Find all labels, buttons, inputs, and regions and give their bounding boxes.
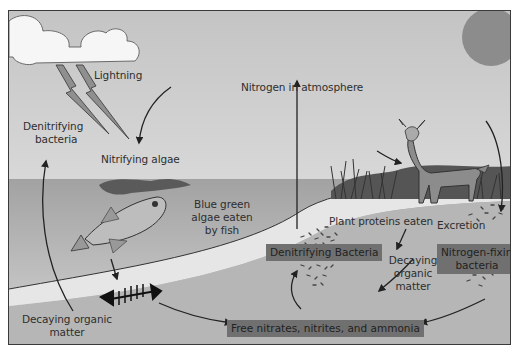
label-nitrifying-algae: Nitrifying algae — [101, 153, 180, 166]
label-blue-green-3: by fish — [187, 224, 257, 237]
label-nitrogen-atmosphere: Nitrogen in atmosphere — [241, 81, 363, 94]
box-nitrogen-fixing-2: bacteria — [441, 259, 511, 272]
label-decaying-mid-2: organic — [383, 267, 443, 280]
label-excretion: Excretion — [437, 219, 485, 232]
nitrogen-cycle-diagram: Lightning Denitrifying bacteria Nitrifyi… — [8, 10, 511, 345]
label-decaying-left-2: matter — [17, 326, 117, 339]
label-decaying-left-1: Decaying organic — [17, 313, 117, 326]
label-blue-green-1: Blue green — [187, 198, 257, 211]
box-free-nitrates: Free nitrates, nitrites, and ammonia — [227, 320, 424, 337]
box-nitrogen-fixing-1: Nitrogen-fixing — [441, 246, 511, 259]
box-nitrogen-fixing-bacteria: Nitrogen-fixing bacteria — [437, 244, 511, 274]
diagram-scene — [9, 11, 511, 345]
label-decaying-mid-3: matter — [383, 280, 443, 293]
label-plant-proteins: Plant proteins eaten — [329, 215, 433, 228]
box-denitrifying-bacteria: Denitrifying Bacteria — [266, 244, 382, 261]
label-lightning: Lightning — [94, 69, 142, 82]
label-decaying-mid-1: Decaying — [383, 254, 443, 267]
label-denitrifying-bacteria-2: bacteria — [35, 133, 77, 146]
label-denitrifying-bacteria-1: Denitrifying — [23, 120, 83, 133]
label-blue-green-2: algae eaten — [187, 211, 257, 224]
